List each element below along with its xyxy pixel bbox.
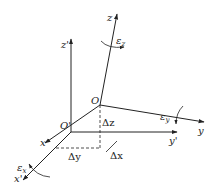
diagram-canvas: z z' y y' x x' O O' Δz Δx Δy εz εy εx xyxy=(0,0,218,191)
epsilon-z-label: εz xyxy=(116,35,125,48)
x-prime-axis-label: x' xyxy=(14,173,22,184)
y-axis-label: y xyxy=(197,125,204,136)
x-axis-label: x xyxy=(40,137,46,148)
epsilon-x-subscript: x xyxy=(22,167,26,175)
origin-o-prime-label: O' xyxy=(60,120,71,131)
epsilon-y-subscript: y xyxy=(164,116,170,124)
delta-z-label: Δz xyxy=(102,117,115,128)
epsilon-y-label: εy xyxy=(160,111,170,124)
z-axis-label: z xyxy=(106,12,113,23)
delta-x-label: Δx xyxy=(110,150,123,161)
y-prime-axis-label: y' xyxy=(168,135,177,146)
epsilon-z-subscript: z xyxy=(120,40,125,48)
y-axis xyxy=(100,105,204,122)
x-axis xyxy=(45,105,100,143)
eps-y-rotation-arc xyxy=(176,106,183,124)
z-prime-axis-label: z' xyxy=(60,39,69,50)
x-prime-axis xyxy=(23,132,71,180)
coordinate-diagram: z z' y y' x x' O O' Δz Δx Δy εz εy εx xyxy=(0,0,218,191)
origin-o-label: O xyxy=(91,95,99,106)
z-axis xyxy=(100,14,117,105)
delta-y-label: Δy xyxy=(68,151,81,162)
